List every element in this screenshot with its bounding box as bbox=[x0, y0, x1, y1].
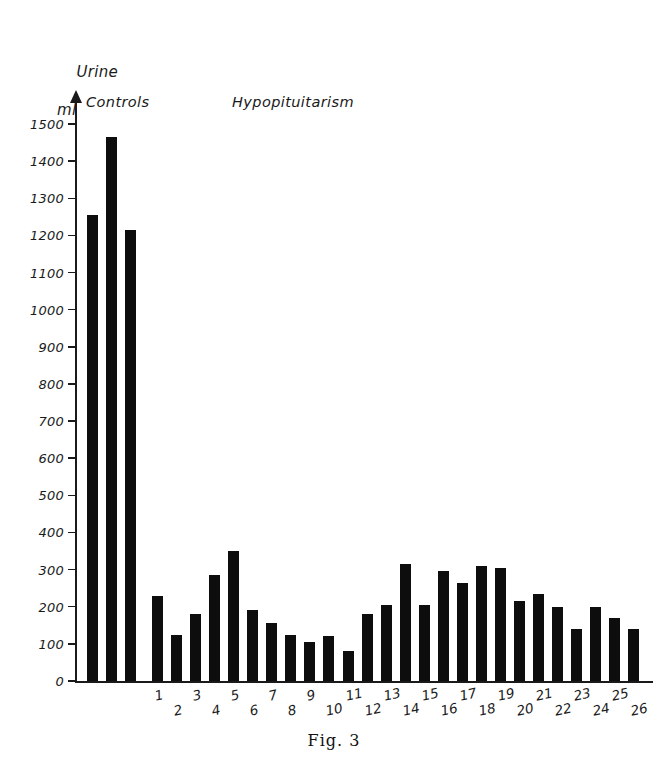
y-axis-line bbox=[75, 101, 77, 683]
x-axis-label-26: 26 bbox=[629, 699, 649, 718]
y-tick-0 bbox=[68, 680, 77, 682]
x-axis-label-16: 16 bbox=[439, 699, 459, 718]
y-tick-label-200: 200 bbox=[4, 599, 64, 614]
bar-control-2 bbox=[106, 137, 117, 681]
y-tick-label-300: 300 bbox=[4, 562, 64, 577]
x-axis-label-20: 20 bbox=[515, 699, 535, 718]
bar-hypopituitarism-14 bbox=[400, 564, 411, 681]
bar-hypopituitarism-7 bbox=[266, 623, 277, 681]
y-tick-label-1300: 1300 bbox=[4, 191, 64, 206]
bar-hypopituitarism-3 bbox=[190, 614, 201, 681]
bar-hypopituitarism-8 bbox=[285, 635, 296, 681]
y-tick-1500 bbox=[68, 123, 77, 125]
bar-hypopituitarism-6 bbox=[247, 610, 258, 681]
bar-chart-plot: Urine ml Controls Hypopituitarism 010020… bbox=[0, 0, 668, 768]
bar-hypopituitarism-25 bbox=[609, 618, 620, 681]
y-tick-1100 bbox=[68, 272, 77, 274]
bar-control-1 bbox=[87, 215, 98, 681]
y-tick-600 bbox=[68, 457, 77, 459]
y-tick-label-1500: 1500 bbox=[4, 117, 64, 132]
x-axis-label-24: 24 bbox=[591, 699, 611, 718]
x-axis-label-5: 5 bbox=[229, 686, 241, 703]
x-axis-label-21: 21 bbox=[534, 684, 554, 703]
bar-hypopituitarism-22 bbox=[552, 607, 563, 681]
x-axis-label-4: 4 bbox=[210, 701, 222, 718]
y-tick-label-800: 800 bbox=[4, 376, 64, 391]
y-tick-900 bbox=[68, 346, 77, 348]
y-tick-label-500: 500 bbox=[4, 488, 64, 503]
y-tick-label-1000: 1000 bbox=[4, 302, 64, 317]
x-axis-label-14: 14 bbox=[401, 699, 421, 718]
bar-hypopituitarism-1 bbox=[152, 596, 163, 681]
bar-hypopituitarism-2 bbox=[171, 635, 182, 681]
bar-hypopituitarism-26 bbox=[628, 629, 639, 681]
x-axis-label-2: 2 bbox=[172, 701, 184, 718]
y-tick-label-700: 700 bbox=[4, 414, 64, 429]
y-tick-500 bbox=[68, 495, 77, 497]
x-axis-label-19: 19 bbox=[496, 684, 516, 703]
x-axis-label-8: 8 bbox=[286, 701, 298, 718]
bar-hypopituitarism-20 bbox=[514, 601, 525, 681]
y-tick-label-1400: 1400 bbox=[4, 154, 64, 169]
bar-hypopituitarism-16 bbox=[438, 571, 449, 681]
x-axis-label-13: 13 bbox=[382, 684, 402, 703]
group-label-controls: Controls bbox=[86, 94, 150, 110]
y-tick-label-900: 900 bbox=[4, 339, 64, 354]
x-axis-label-10: 10 bbox=[324, 699, 344, 718]
bar-hypopituitarism-4 bbox=[209, 575, 220, 681]
y-tick-label-100: 100 bbox=[4, 636, 64, 651]
x-axis-label-6: 6 bbox=[248, 701, 260, 718]
x-axis-label-25: 25 bbox=[610, 684, 630, 703]
x-axis-label-1: 1 bbox=[153, 686, 165, 703]
bar-hypopituitarism-17 bbox=[457, 583, 468, 681]
bar-hypopituitarism-10 bbox=[323, 636, 334, 681]
x-axis-label-22: 22 bbox=[553, 699, 573, 718]
group-label-hypopituitarism: Hypopituitarism bbox=[232, 94, 354, 110]
y-tick-label-1200: 1200 bbox=[4, 228, 64, 243]
x-axis-label-15: 15 bbox=[420, 684, 440, 703]
y-tick-1400 bbox=[68, 160, 77, 162]
y-tick-300 bbox=[68, 569, 77, 571]
figure-caption: Fig. 3 bbox=[0, 731, 668, 750]
y-tick-label-1100: 1100 bbox=[4, 265, 64, 280]
x-axis-label-11: 11 bbox=[344, 684, 364, 703]
x-axis-label-17: 17 bbox=[458, 684, 478, 703]
y-tick-700 bbox=[68, 420, 77, 422]
x-axis-label-12: 12 bbox=[363, 699, 383, 718]
bar-hypopituitarism-21 bbox=[533, 594, 544, 681]
x-axis-label-18: 18 bbox=[477, 699, 497, 718]
y-tick-800 bbox=[68, 383, 77, 385]
bar-hypopituitarism-11 bbox=[343, 651, 354, 681]
x-axis-label-9: 9 bbox=[305, 686, 317, 703]
bar-hypopituitarism-13 bbox=[381, 605, 392, 681]
y-tick-1000 bbox=[68, 309, 77, 311]
x-axis-label-23: 23 bbox=[572, 684, 592, 703]
y-tick-400 bbox=[68, 532, 77, 534]
y-tick-label-400: 400 bbox=[4, 525, 64, 540]
x-axis-label-3: 3 bbox=[191, 686, 203, 703]
x-axis-label-7: 7 bbox=[267, 686, 279, 703]
bar-hypopituitarism-23 bbox=[571, 629, 582, 681]
y-tick-1200 bbox=[68, 235, 77, 237]
y-tick-1300 bbox=[68, 198, 77, 200]
x-axis-line bbox=[75, 681, 653, 683]
figure-root: Urine ml Controls Hypopituitarism 010020… bbox=[0, 0, 668, 768]
y-tick-label-600: 600 bbox=[4, 451, 64, 466]
y-axis-title-line1: Urine bbox=[76, 63, 118, 81]
bar-hypopituitarism-19 bbox=[495, 568, 506, 681]
bar-hypopituitarism-12 bbox=[362, 614, 373, 681]
bar-hypopituitarism-18 bbox=[476, 566, 487, 681]
bar-control-3 bbox=[125, 230, 136, 681]
y-tick-200 bbox=[68, 606, 77, 608]
bar-hypopituitarism-5 bbox=[228, 551, 239, 681]
bar-hypopituitarism-9 bbox=[304, 642, 315, 681]
bar-hypopituitarism-15 bbox=[419, 605, 430, 681]
bar-hypopituitarism-24 bbox=[590, 607, 601, 681]
y-tick-100 bbox=[68, 643, 77, 645]
y-tick-label-0: 0 bbox=[4, 674, 64, 689]
